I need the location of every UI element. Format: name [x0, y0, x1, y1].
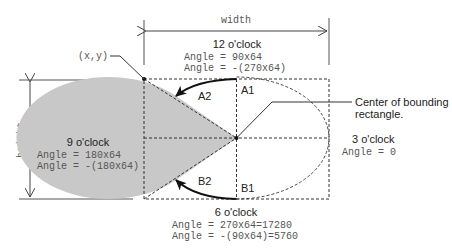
arc-angle-diagram: width height (x,y) Center of bounding re…: [0, 0, 452, 252]
nine-oclock-title: 9 o'clock: [67, 136, 110, 148]
six-oclock-angle1: Angle = 270x64=17280: [172, 220, 292, 231]
twelve-oclock-title: 12 o'clock: [213, 38, 262, 50]
origin-leader-line: [110, 56, 144, 79]
region-a1-label: A1: [241, 84, 254, 96]
region-b2-label: B2: [198, 175, 211, 187]
twelve-oclock-angle2: Angle = -(270x64): [184, 63, 286, 74]
width-label: width: [221, 15, 251, 26]
six-oclock-title: 6 o'clock: [215, 206, 258, 218]
center-label-line2: rectangle.: [355, 108, 403, 120]
center-leader-line: [237, 102, 353, 138]
nine-oclock-angle1: Angle = 180x64: [37, 150, 121, 161]
origin-label: (x,y): [78, 51, 108, 62]
center-label-line1: Center of bounding: [355, 96, 449, 108]
nine-oclock-angle2: Angle = -(180x64): [37, 161, 139, 172]
region-b1-label: B1: [241, 182, 254, 194]
twelve-oclock-angle1: Angle = 90x64: [184, 52, 262, 63]
six-oclock-angle2: Angle = -(90x64)=5760: [172, 231, 298, 242]
region-a2-label: A2: [198, 90, 211, 102]
three-oclock-angle: Angle = 0: [342, 147, 396, 158]
three-oclock-title: 3 o'clock: [352, 133, 395, 145]
